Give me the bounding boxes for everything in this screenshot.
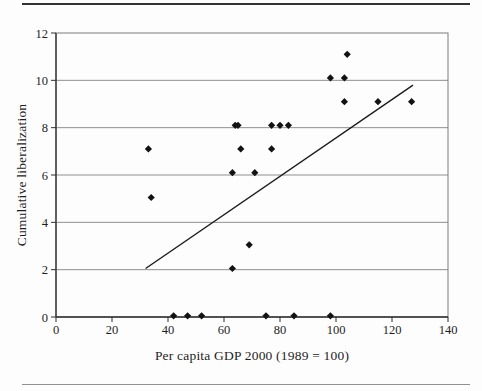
x-tick-label-40: 40 bbox=[162, 323, 175, 337]
data-point-5 bbox=[327, 312, 334, 319]
x-tick-label-0: 0 bbox=[53, 323, 59, 337]
data-point-4 bbox=[290, 312, 297, 319]
data-point-13 bbox=[268, 145, 275, 152]
data-point-12 bbox=[237, 145, 244, 152]
trend-line bbox=[146, 85, 413, 268]
data-point-20 bbox=[374, 98, 381, 105]
x-axis-title: Per capita GDP 2000 (1989 = 100) bbox=[155, 348, 349, 364]
scatter-chart: 024681012020406080100120140 bbox=[0, 0, 482, 391]
y-tick-label-0: 0 bbox=[42, 311, 48, 325]
figure-bottom-rule bbox=[22, 384, 470, 385]
y-tick-label-2: 2 bbox=[42, 263, 48, 277]
data-point-21 bbox=[408, 98, 415, 105]
y-tick-label-10: 10 bbox=[36, 74, 49, 88]
y-tick-label-8: 8 bbox=[42, 121, 48, 135]
data-point-2 bbox=[198, 312, 205, 319]
data-point-11 bbox=[145, 145, 152, 152]
data-point-3 bbox=[262, 312, 269, 319]
x-tick-label-120: 120 bbox=[383, 323, 402, 337]
data-point-19 bbox=[341, 98, 348, 105]
x-tick-label-80: 80 bbox=[274, 323, 287, 337]
figure-scatter-plot: 024681012020406080100120140 Per capita G… bbox=[0, 0, 482, 391]
y-tick-label-6: 6 bbox=[42, 169, 48, 183]
data-point-1 bbox=[184, 312, 191, 319]
data-point-6 bbox=[229, 265, 236, 272]
data-point-24 bbox=[344, 51, 351, 58]
x-tick-label-60: 60 bbox=[218, 323, 231, 337]
x-tick-label-20: 20 bbox=[106, 323, 119, 337]
x-tick-label-140: 140 bbox=[439, 323, 458, 337]
y-axis-title: Cumulative liberalization bbox=[14, 104, 30, 247]
x-tick-label-100: 100 bbox=[327, 323, 346, 337]
data-point-8 bbox=[148, 194, 155, 201]
y-tick-label-4: 4 bbox=[42, 216, 49, 230]
data-point-0 bbox=[170, 312, 177, 319]
data-point-7 bbox=[246, 241, 253, 248]
y-tick-label-12: 12 bbox=[36, 27, 49, 41]
